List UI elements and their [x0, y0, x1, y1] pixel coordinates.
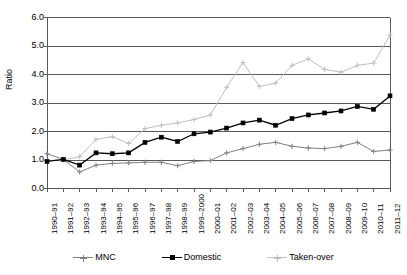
chart-legend: MNCDomesticTaken-over: [0, 252, 407, 270]
plus-marker-icon: [73, 253, 93, 262]
legend-item-taken-over[interactable]: Taken-over: [267, 252, 334, 262]
plus-marker-icon: [267, 253, 287, 262]
x-tick-label: 2006–07: [312, 202, 320, 233]
x-tick-label: 2009–10: [361, 202, 369, 233]
legend-label: Domestic: [184, 252, 222, 262]
legend-item-domestic[interactable]: Domestic: [162, 252, 222, 262]
x-tick-label: 1997–98: [165, 202, 173, 233]
x-tick-label: 2001–02: [230, 202, 238, 233]
x-tick-label: 2010–11: [377, 203, 385, 234]
x-tick-label: 1991–92: [67, 202, 75, 233]
x-tick-label: 2003–04: [263, 202, 271, 233]
x-axis-ticks: 1990–911991–921992–931993–941994–951995–…: [0, 0, 407, 275]
x-tick-label: 2008–09: [345, 202, 353, 233]
x-tick-label: 1996–97: [149, 202, 157, 233]
square-marker-icon: [162, 253, 182, 262]
x-tick-label: 1995–96: [132, 202, 140, 233]
x-tick-label: 1999–2000: [198, 193, 206, 233]
legend-item-mnc[interactable]: MNC: [73, 252, 116, 262]
x-tick-label: 2005–06: [296, 202, 304, 233]
x-tick-label: 1998–99: [181, 202, 189, 233]
x-tick-label: 2004–05: [279, 202, 287, 233]
x-tick-label: 1993–94: [100, 202, 108, 233]
legend-label: MNC: [95, 252, 116, 262]
x-tick-label: 2011–12: [394, 203, 402, 234]
ratio-line-chart: Ratio 0.01.02.03.04.05.06.0 1990–911991–…: [0, 0, 407, 275]
legend-label: Taken-over: [289, 252, 334, 262]
x-tick-label: 2007–08: [328, 202, 336, 233]
x-tick-label: 1994–95: [116, 202, 124, 233]
x-tick-label: 1992–93: [83, 202, 91, 233]
x-tick-label: 2002–03: [247, 202, 255, 233]
x-tick-label: 2000–01: [214, 202, 222, 233]
x-tick-label: 1990–91: [51, 202, 59, 233]
